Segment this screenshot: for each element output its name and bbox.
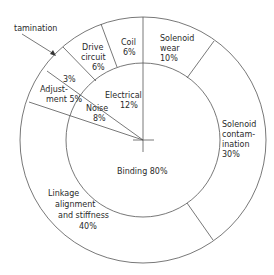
label-noise: Noise 8% — [86, 104, 111, 123]
divider-wear-contam — [187, 41, 214, 78]
label-coil: Coil 6% — [121, 38, 138, 57]
callout-label: tamination — [14, 24, 57, 33]
sunburst-diagram: tamination Binding 80% Electrical 12% No… — [0, 0, 274, 275]
label-adjustment: Adjust- ment 5% — [40, 85, 83, 104]
divider-contam-linkage — [187, 203, 213, 240]
arrow-head-icon — [50, 50, 56, 56]
label-contamination-3: 3% — [63, 75, 76, 84]
label-solenoid-wear: Solenoid wear 10% — [160, 34, 197, 63]
callout-leader — [22, 34, 54, 54]
label-drive-circuit: Drive circuit 6% — [81, 43, 108, 72]
label-binding: Binding 80% — [117, 167, 168, 176]
label-solenoid-contamination: Solenoid contam- ination 30% — [222, 120, 259, 159]
label-linkage-alignment: Linkage alignment and stiffness 40% — [48, 189, 112, 231]
label-electrical: Electrical 12% — [105, 91, 144, 110]
